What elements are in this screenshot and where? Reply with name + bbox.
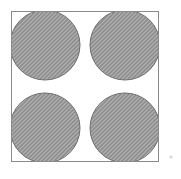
circle-bottom-left	[10, 93, 80, 163]
figure-svg: Four shaded circles packed in a square	[0, 0, 181, 179]
stray-speck	[169, 155, 172, 158]
diagram-canvas: Four shaded circles packed in a square	[0, 0, 181, 179]
circle-bottom-right	[90, 93, 160, 163]
circle-top-right	[90, 10, 160, 80]
circle-top-left	[10, 10, 80, 80]
